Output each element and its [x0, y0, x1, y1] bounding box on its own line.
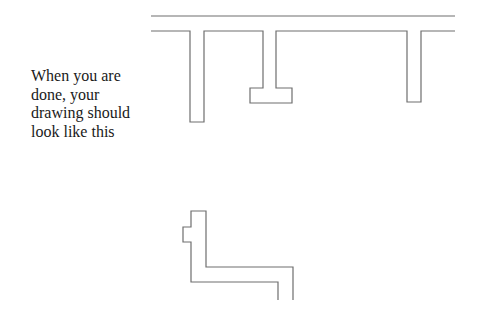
example-drawing	[0, 0, 481, 313]
top-figure	[151, 16, 455, 122]
bottom-figure	[183, 211, 293, 300]
top-wall-outline	[151, 31, 455, 122]
bottom-wall-outline	[183, 211, 293, 300]
